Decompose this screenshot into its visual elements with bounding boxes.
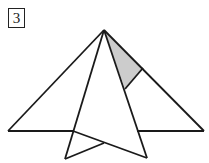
outer-right-edge [104,30,204,131]
fold-crease [73,131,147,158]
geometry-diagram [0,0,209,163]
lower-flap-edge [65,143,104,159]
shaded-triangle [104,30,143,89]
inner-right-fold [104,30,147,158]
